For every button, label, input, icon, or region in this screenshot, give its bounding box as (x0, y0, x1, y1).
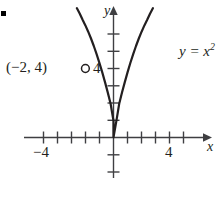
equation-label-exponent: 2 (210, 41, 215, 52)
y-axis-name-label: y (104, 4, 110, 18)
open-point-marker (82, 65, 90, 73)
x-axis-tick-label-4: 4 (165, 145, 173, 160)
x-axis-name-label: x (207, 140, 213, 154)
y-axis-arrowhead (109, 6, 117, 15)
point-coordinate-label: (−2, 4) (6, 60, 47, 75)
equation-label-base: y = x (179, 43, 210, 59)
y-axis-tick-label-4: 4 (93, 61, 101, 76)
parabola-curve (77, 8, 153, 137)
x-axis-tick-label-negative-4: −4 (33, 145, 49, 160)
equation-label: y = x2 (179, 42, 215, 59)
figure-canvas: (−2, 4) 4 −4 4 y x y = x2 (0, 0, 222, 206)
parabola-graph (0, 0, 222, 206)
